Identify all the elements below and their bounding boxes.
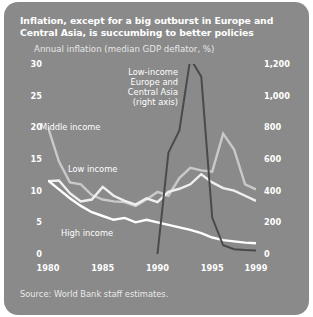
y-tick-right: 1,200 [264,60,290,68]
series-label-low-income: Low income [68,165,117,175]
x-tick: 1995 [198,264,226,272]
series-label-high-income: High income [61,229,113,239]
y-tick-left: 30 [24,60,42,68]
y-tick-right: 400 [264,187,281,195]
x-tick: 1990 [143,264,171,272]
x-tick: 1999 [242,264,270,272]
source-note: Source: World Bank staff estimates. [20,290,168,299]
x-tick: 1985 [89,264,117,272]
y-tick-left: 15 [24,155,42,163]
y-tick-right: 600 [264,155,281,163]
x-tick: 1980 [34,264,62,272]
chart-subtitle: Annual inflation (median GDP deflator, %… [34,44,294,55]
y-tick-left: 0 [24,250,42,258]
chart-title: Inflation, except for a big outburst in … [20,15,292,39]
series-line [48,174,256,204]
y-tick-left: 10 [24,187,42,195]
series-label-middle-income: Middle income [40,123,100,133]
y-tick-right: 1,000 [264,92,290,100]
y-tick-left: 25 [24,92,42,100]
chart-panel: Inflation, except for a big outburst in … [4,2,309,315]
y-tick-right: 800 [264,123,281,131]
y-tick-left: 5 [24,218,42,226]
series-label-eca-axis-note: (right axis) [100,98,178,108]
y-tick-right: 0 [264,250,270,258]
y-tick-right: 200 [264,218,281,226]
